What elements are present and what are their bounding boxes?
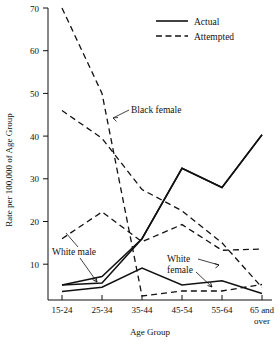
suicide-rate-line-chart: 70 60 50 40 30 20 10 15-24 25-34 35-44 4… xyxy=(0,0,280,347)
legend: Actual Attempted xyxy=(156,17,234,42)
chart-svg: 70 60 50 40 30 20 10 15-24 25-34 35-44 4… xyxy=(0,0,280,347)
series-white-female-attempted xyxy=(62,111,262,288)
annotation-white-female-label-line1: White xyxy=(167,254,190,264)
x-tick-label-0: 15-24 xyxy=(52,305,73,315)
x-tick-label-4: 55-64 xyxy=(212,305,233,315)
x-tick-label-2: 35-44 xyxy=(132,305,153,315)
y-axis-ticks: 70 60 50 40 30 20 10 xyxy=(30,4,48,270)
annotation-black-female: Black female xyxy=(113,105,181,122)
annotation-white-female-arrowhead-dashed xyxy=(215,264,220,269)
annotation-white-male-leader-dashed xyxy=(66,233,78,247)
y-tick-label-40: 40 xyxy=(30,132,40,142)
y-tick-label-60: 60 xyxy=(30,46,40,56)
series-black-male-actual xyxy=(62,135,262,285)
annotation-white-male: White male xyxy=(52,233,97,282)
annotation-white-male-label: White male xyxy=(52,247,96,257)
y-tick-label-20: 20 xyxy=(30,217,40,227)
annotation-white-female-label-line2: female xyxy=(167,265,193,275)
y-tick-label-70: 70 xyxy=(30,4,40,14)
x-tick-label-5b: over xyxy=(254,316,270,326)
series-white-male-attempted xyxy=(62,212,262,250)
annotation-white-male-leader-solid xyxy=(80,258,97,282)
y-axis-title: Rate per 100,000 of Age Group xyxy=(4,113,14,227)
series-white-male-actual xyxy=(62,135,262,285)
x-tick-label-5a: 65 and xyxy=(250,305,275,315)
annotation-black-female-leader xyxy=(113,110,129,118)
legend-label-attempted: Attempted xyxy=(194,32,234,42)
annotation-white-female-leader-solid xyxy=(196,272,212,287)
y-tick-label-10: 10 xyxy=(30,260,40,270)
y-tick-label-50: 50 xyxy=(30,89,40,99)
legend-label-actual: Actual xyxy=(194,17,220,27)
x-axis-title: Age Group xyxy=(130,327,171,337)
annotation-black-female-label: Black female xyxy=(131,105,181,115)
y-tick-label-30: 30 xyxy=(30,174,40,184)
x-tick-label-1: 25-34 xyxy=(92,305,113,315)
annotation-black-female-arrowhead xyxy=(113,118,118,122)
x-tick-label-3: 45-54 xyxy=(172,305,193,315)
